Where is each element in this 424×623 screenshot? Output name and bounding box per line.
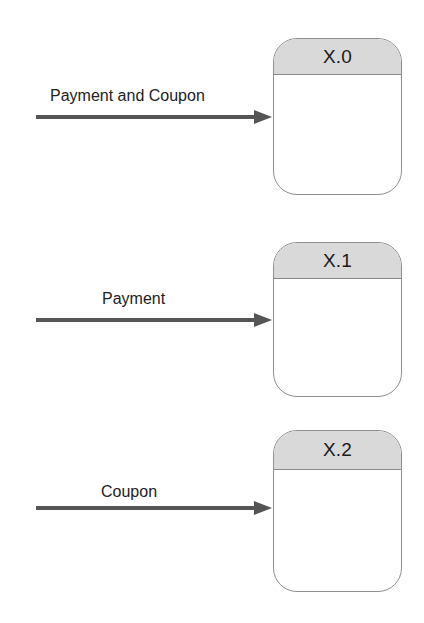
process-box-x1: X.1: [273, 242, 402, 397]
flow-label: Coupon: [101, 483, 157, 501]
arrow-right-icon: [36, 313, 273, 327]
flow-label: Payment: [102, 290, 165, 308]
process-id: X.0: [323, 46, 352, 68]
process-box-x2: X.2: [273, 430, 402, 592]
process-id: X.2: [323, 439, 352, 461]
process-header: X.2: [274, 431, 401, 470]
process-id: X.1: [323, 250, 352, 272]
arrow-right-icon: [36, 501, 273, 515]
process-box-x0: X.0: [273, 38, 402, 195]
process-header: X.0: [274, 39, 401, 75]
diagram-canvas: Payment and Coupon X.0 Payment X.1 Coupo…: [0, 0, 424, 623]
arrow-right-icon: [36, 110, 273, 124]
flow-label: Payment and Coupon: [50, 87, 205, 105]
process-header: X.1: [274, 243, 401, 279]
